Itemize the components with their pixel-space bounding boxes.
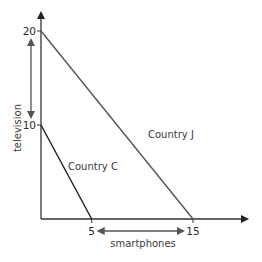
y-axis-label: television [12,104,23,152]
ppf-chart: 1020515 Country JCountry C smartphones t… [0,0,262,262]
axes [41,13,247,219]
country-j-line [41,31,193,219]
y-tick-label: 20 [23,25,36,37]
y-tick-label: 10 [23,119,36,131]
country-c-line [41,125,92,219]
country-c-label: Country C [68,161,118,172]
x-tick-label: 15 [186,225,199,237]
country-j-label: Country J [148,129,194,140]
x-axis-label: smartphones [110,238,176,249]
x-tick-label: 5 [88,225,95,237]
series-group: Country JCountry C [41,31,194,219]
